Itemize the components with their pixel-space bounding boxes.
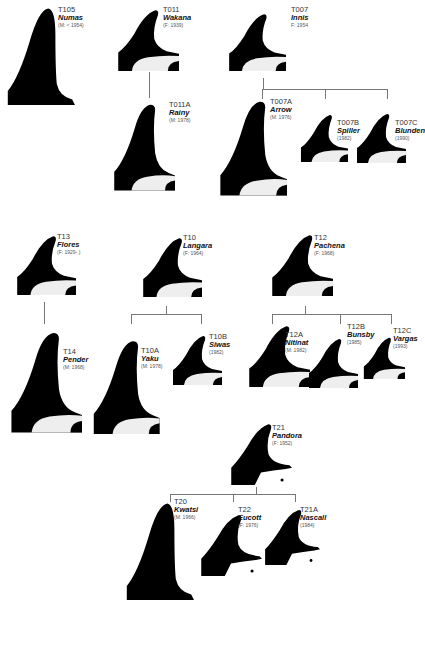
whale-name: Blunden: [395, 127, 425, 135]
label-T22: T22 Eucott (F: 1976): [238, 506, 261, 528]
whale-name: Wakana: [163, 14, 191, 22]
lineage-line: [387, 89, 388, 99]
lineage-line: [233, 494, 234, 502]
label-T007: T007 Innis F: 1954: [291, 6, 309, 28]
whale-name: Nitinat: [285, 339, 308, 347]
fin-T12B: [308, 338, 358, 388]
whale-info: (M: 1978): [141, 364, 162, 369]
whale-info: (1993): [393, 344, 418, 349]
whale-name: Langara: [183, 242, 212, 250]
lineage-line: [149, 72, 150, 98]
lineage-line: [325, 89, 326, 99]
whale-info: (1984): [300, 523, 326, 528]
label-T14: T14 Pender (M: 1968): [63, 348, 88, 370]
label-T20: T20 Kwatsi (M: 1966): [174, 498, 198, 520]
whale-info: (M: 1968): [63, 365, 88, 370]
label-T007C: T007C Blunden (1990): [395, 119, 425, 141]
label-T12: T12 Pachena (F: 1968): [314, 234, 345, 256]
whale-name: Kwatsi: [174, 506, 198, 514]
label-T12A: T12A Nitinat (M: 1982): [285, 331, 308, 353]
label-T105: T105 Numas (M: < 1954): [58, 6, 84, 28]
lineage-line: [391, 314, 392, 324]
whale-info: (M: < 1954): [58, 23, 84, 28]
whale-name: Flores: [57, 241, 80, 249]
lineage-line: [44, 302, 45, 324]
whale-name: Pachena: [314, 242, 345, 250]
lineage-line: [256, 487, 257, 494]
lineage-line: [131, 314, 132, 324]
label-T007A: T007A Arrow (M: 1976): [270, 98, 292, 120]
label-T10: T10 Langara (F: 1964): [183, 234, 212, 256]
label-T10B: T10B Siwas (1982): [209, 333, 230, 355]
whale-name: Vargas: [393, 335, 418, 343]
whale-info: (F: 1939): [163, 23, 191, 28]
whale-info: (F: 1952): [272, 441, 302, 446]
label-T21: T21 Pandora (F: 1952): [272, 424, 302, 446]
whale-info: (M: 1966): [174, 515, 198, 520]
whale-info: (1982): [209, 350, 230, 355]
whale-name: Nascall: [300, 514, 326, 522]
lineage-line: [272, 314, 273, 324]
lineage-line: [272, 314, 392, 315]
fin-T007: [228, 6, 286, 78]
whale-info: (F: 1976): [238, 523, 261, 528]
whale-name: Eucott: [238, 514, 261, 522]
whale-info: (M: 1978): [169, 118, 191, 123]
lineage-line: [305, 306, 306, 314]
whale-name: Rainy: [169, 109, 191, 117]
fin-T011A: [113, 97, 175, 197]
whale-info: (F: 1968): [314, 251, 345, 256]
whale-info: F: 1954: [291, 23, 309, 28]
whale-info: (M: 1982): [285, 348, 308, 353]
label-T10A: T10A Yaku (M: 1978): [141, 347, 162, 369]
label-T011: T011 Wakana (F: 1939): [163, 6, 191, 28]
label-T011A: T011A Rainy (M: 1978): [169, 101, 191, 123]
lineage-line: [201, 314, 202, 324]
whale-name: Arrow: [270, 106, 292, 114]
lineage-line: [131, 314, 202, 315]
lineage-line: [263, 78, 264, 89]
whale-name: Siwas: [209, 341, 230, 349]
lineage-line: [295, 494, 296, 502]
whale-name: Pender: [63, 356, 88, 364]
whale-name: Innis: [291, 14, 309, 22]
whale-info: (F: 1929- ): [57, 250, 80, 255]
whale-name: Yaku: [141, 355, 162, 363]
label-T12C: T12C Vargas (1993): [393, 327, 418, 349]
lineage-line: [340, 314, 341, 324]
whale-info: (M: 1976): [270, 115, 292, 120]
lineage-line: [166, 306, 167, 314]
whale-name: Numas: [58, 14, 84, 22]
whale-name: Pandora: [272, 432, 302, 440]
fin-T14: [10, 330, 82, 434]
whale-info: (F: 1964): [183, 251, 212, 256]
label-T21A: T21A Nascall (1984): [300, 506, 326, 528]
whale-info: (1990): [395, 136, 425, 141]
label-T13: T13 Flores (F: 1929- ): [57, 233, 80, 255]
